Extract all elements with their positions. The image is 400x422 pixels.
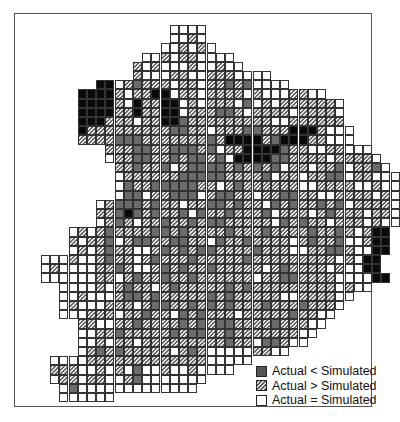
grid-cell <box>124 163 133 172</box>
grid-cell <box>317 181 326 190</box>
grid-cell <box>105 310 114 319</box>
grid-cell <box>115 292 124 301</box>
grid-cell <box>96 80 105 89</box>
grid-cell <box>326 172 335 181</box>
grid-cell <box>87 237 96 246</box>
grid-cell <box>280 329 289 338</box>
grid-cell <box>78 237 87 246</box>
grid-cell <box>225 365 234 374</box>
grid-cell <box>299 163 308 172</box>
grid-cell <box>161 117 170 126</box>
grid-cell <box>207 310 216 319</box>
grid-cell <box>345 200 354 209</box>
grid-cell <box>243 356 252 365</box>
grid-cell <box>262 246 271 255</box>
grid-cell <box>317 117 326 126</box>
grid-cell <box>151 62 160 71</box>
grid-cell <box>354 246 363 255</box>
grid-cell <box>197 62 206 71</box>
grid-cell <box>308 108 317 117</box>
grid-cell <box>280 301 289 310</box>
grid-cell <box>188 273 197 282</box>
grid-cell <box>87 375 96 384</box>
grid-cell <box>234 273 243 282</box>
grid-cell <box>326 273 335 282</box>
grid-cell <box>96 264 105 273</box>
grid-cell <box>326 135 335 144</box>
grid-cell <box>372 200 381 209</box>
grid-cell <box>87 319 96 328</box>
grid-cell <box>96 126 105 135</box>
grid-cell <box>161 338 170 347</box>
grid-cell <box>253 292 262 301</box>
grid-cell <box>124 227 133 236</box>
grid-cell <box>299 89 308 98</box>
grid-cell <box>299 209 308 218</box>
grid-cell <box>299 246 308 255</box>
grid-cell <box>133 200 142 209</box>
grid-cell <box>207 292 216 301</box>
grid-cell <box>372 172 381 181</box>
grid-cell <box>161 163 170 172</box>
grid-cell <box>142 209 151 218</box>
grid-cell <box>207 319 216 328</box>
grid-cell <box>243 154 252 163</box>
grid-cell <box>151 154 160 163</box>
grid-cell <box>170 117 179 126</box>
grid-cell <box>225 283 234 292</box>
grid-cell <box>289 191 298 200</box>
grid-cell <box>345 255 354 264</box>
grid-cell <box>151 273 160 282</box>
grid-cell <box>216 126 225 135</box>
grid-cell <box>326 283 335 292</box>
grid-cell <box>124 154 133 163</box>
grid-cell <box>354 209 363 218</box>
grid-cell <box>299 126 308 135</box>
grid-cell <box>216 163 225 172</box>
grid-cell <box>41 273 50 282</box>
grid-cell <box>234 292 243 301</box>
grid-cell <box>289 163 298 172</box>
grid-cell <box>335 283 344 292</box>
grid-cell <box>197 34 206 43</box>
grid-cell <box>289 329 298 338</box>
grid-cell <box>87 283 96 292</box>
grid-cell <box>225 218 234 227</box>
grid-cell <box>216 191 225 200</box>
grid-cell <box>326 200 335 209</box>
grid-cell <box>142 218 151 227</box>
grid-cell <box>179 43 188 52</box>
grid-cell <box>170 43 179 52</box>
grid-cell <box>124 264 133 273</box>
grid-cell <box>271 301 280 310</box>
grid-cell <box>188 34 197 43</box>
grid-cell <box>234 227 243 236</box>
grid-cell <box>50 273 59 282</box>
grid-cell <box>188 365 197 374</box>
grid-cell <box>308 181 317 190</box>
grid-cell <box>234 209 243 218</box>
grid-cell <box>69 273 78 282</box>
grid-cell <box>41 264 50 273</box>
grid-cell <box>207 365 216 374</box>
grid-cell <box>262 273 271 282</box>
grid-cell <box>253 264 262 273</box>
grid-cell <box>87 227 96 236</box>
grid-cell <box>243 99 252 108</box>
grid-cell <box>253 89 262 98</box>
grid-cell <box>262 200 271 209</box>
grid-cell <box>96 301 105 310</box>
grid-cell <box>133 209 142 218</box>
grid-cell <box>115 319 124 328</box>
grid-cell <box>87 108 96 117</box>
grid-cell <box>299 135 308 144</box>
grid-cell <box>133 375 142 384</box>
grid-cell <box>207 145 216 154</box>
grid-cell <box>69 283 78 292</box>
grid-cell <box>87 117 96 126</box>
grid-cell <box>161 126 170 135</box>
grid-cell <box>69 292 78 301</box>
grid-cell <box>299 99 308 108</box>
grid-cell <box>170 227 179 236</box>
grid-cell <box>271 329 280 338</box>
